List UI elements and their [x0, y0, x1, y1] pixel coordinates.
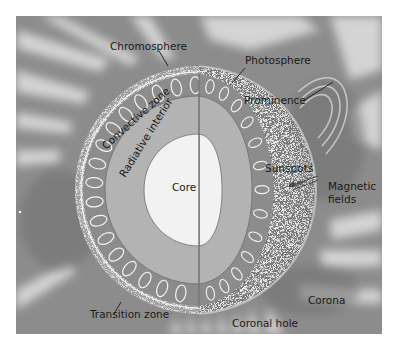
- label-coronal-hole: Coronal hole: [232, 317, 298, 329]
- label-transition-zone: Transition zone: [89, 308, 169, 320]
- label-core: Core: [172, 181, 196, 193]
- label-corona: Corona: [308, 294, 345, 306]
- label-magnetic-fields-1: Magnetic: [328, 180, 376, 192]
- label-photosphere: Photosphere: [245, 54, 311, 66]
- label-magnetic-fields-2: fields: [328, 193, 356, 205]
- label-chromosphere: Chromosphere: [110, 40, 187, 52]
- sun-structure-diagram: Chromosphere Photosphere Prominence Conv…: [0, 0, 398, 353]
- label-prominence: Prominence: [244, 94, 306, 106]
- label-sunspots: Sunspots: [265, 162, 313, 174]
